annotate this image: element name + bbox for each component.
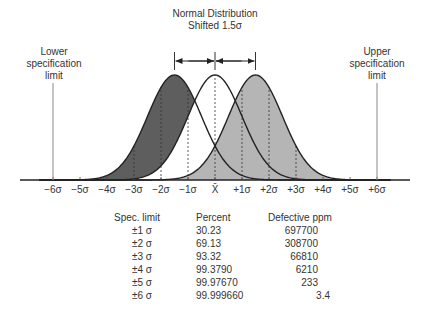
percent-cell: 30.23 xyxy=(196,224,268,237)
spec-limit-cell: ±6 σ xyxy=(108,289,196,302)
defective-ppm-cell: 3.4 xyxy=(268,289,340,302)
table-row: ±5 σ99.97670233 xyxy=(108,276,340,289)
x-tick-label: −3σ xyxy=(119,184,149,195)
upper-spec-line-3: limit xyxy=(331,70,423,82)
title-line-2: Shifted 1.5σ xyxy=(140,20,290,32)
x-tick-label: −6σ xyxy=(38,184,68,195)
spec-limit-cell: ±4 σ xyxy=(108,263,196,276)
percent-cell: 99.3790 xyxy=(196,263,268,276)
spec-limit-cell: ±1 σ xyxy=(108,224,196,237)
spec-limit-cell: ±2 σ xyxy=(108,237,196,250)
percent-cell: 99.999660 xyxy=(196,289,268,302)
defective-ppm-cell: 66810 xyxy=(268,250,340,263)
spec-limit-cell: ±5 σ xyxy=(108,276,196,289)
table-row: ±1 σ30.23697700 xyxy=(108,224,340,237)
percent-cell: 99.97670 xyxy=(196,276,268,289)
lower-spec-line-3: limit xyxy=(8,70,100,82)
x-tick-label: +1σ xyxy=(227,184,257,195)
x-tick-label: +3σ xyxy=(281,184,311,195)
x-tick-label: +6σ xyxy=(362,184,392,195)
upper-spec-line-2: specification xyxy=(331,58,423,70)
header-spec-limit: Spec. limit xyxy=(108,211,196,224)
defective-ppm-cell: 697700 xyxy=(268,224,340,237)
table-row: ±3 σ93.3266810 xyxy=(108,250,340,263)
table-row: ±2 σ69.13308700 xyxy=(108,237,340,250)
percent-cell: 69.13 xyxy=(196,237,268,250)
title-line-1: Normal Distribution xyxy=(140,8,290,20)
spec-limit-cell: ±3 σ xyxy=(108,250,196,263)
table-row: ±4 σ99.37906210 xyxy=(108,263,340,276)
left-distribution-fill xyxy=(40,75,195,180)
upper-spec-label: Upper specification limit xyxy=(331,46,423,82)
defective-ppm-cell: 6210 xyxy=(268,263,340,276)
table-header-row: Spec. limit Percent Defective ppm xyxy=(108,211,340,224)
table-row: ±6 σ99.9996603.4 xyxy=(108,289,340,302)
x-tick-label: −1σ xyxy=(173,184,203,195)
lower-spec-label: Lower specification limit xyxy=(8,46,100,82)
x-tick-label: −5σ xyxy=(65,184,95,195)
x-tick-label: +2σ xyxy=(254,184,284,195)
header-defective-ppm: Defective ppm xyxy=(268,211,340,224)
spec-limit-table: Spec. limit Percent Defective ppm ±1 σ30… xyxy=(108,211,340,302)
x-tick-label: +4σ xyxy=(308,184,338,195)
x-tick-label: X̄ xyxy=(200,184,230,195)
x-tick-label: +5σ xyxy=(335,184,365,195)
x-tick-label: −4σ xyxy=(92,184,122,195)
lower-spec-line-1: Lower xyxy=(8,46,100,58)
chart-title: Normal Distribution Shifted 1.5σ xyxy=(140,8,290,32)
defective-ppm-cell: 233 xyxy=(268,276,340,289)
defective-ppm-cell: 308700 xyxy=(268,237,340,250)
percent-cell: 93.32 xyxy=(196,250,268,263)
upper-spec-line-1: Upper xyxy=(331,46,423,58)
x-tick-label: −2σ xyxy=(146,184,176,195)
lower-spec-line-2: specification xyxy=(8,58,100,70)
header-percent: Percent xyxy=(196,211,268,224)
